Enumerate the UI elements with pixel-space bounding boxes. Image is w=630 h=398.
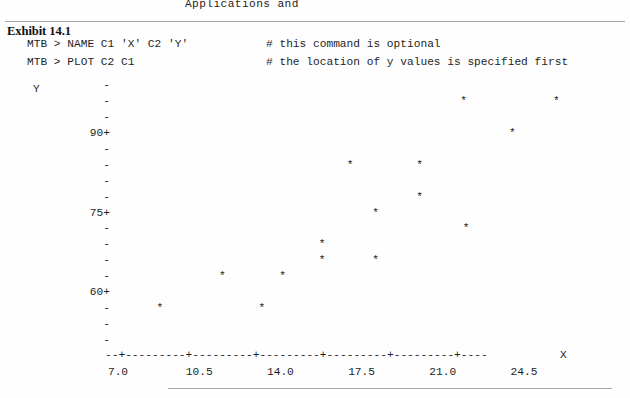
y-axis-tick: - <box>60 239 110 250</box>
x-axis-tick-label: 21.0 <box>420 367 466 378</box>
y-axis-tick: 75+ <box>60 208 110 219</box>
data-point-marker: * <box>416 192 424 203</box>
y-axis-tick: - <box>60 335 110 346</box>
data-point-marker: * <box>460 96 468 107</box>
y-axis-tick: - <box>60 255 110 266</box>
ascii-scatter-plot: Y ---90+----75+----60+--- **************… <box>0 0 630 398</box>
x-axis-tick-label: 24.5 <box>501 367 547 378</box>
data-point-marker: * <box>318 239 326 250</box>
x-axis-tick-label: 10.5 <box>176 367 222 378</box>
y-axis-title: Y <box>33 84 40 95</box>
y-axis-tick: - <box>60 160 110 171</box>
y-axis-tick: 60+ <box>60 287 110 298</box>
data-point-marker: * <box>416 160 424 171</box>
data-point-marker: * <box>508 128 516 139</box>
x-axis-tick-label: 7.0 <box>95 367 141 378</box>
data-point-marker: * <box>156 303 164 314</box>
data-point-marker: * <box>346 160 354 171</box>
y-axis-tick: - <box>60 80 110 91</box>
y-axis-tick: - <box>60 176 110 187</box>
y-axis-tick: - <box>60 144 110 155</box>
data-point-marker: * <box>462 223 470 234</box>
y-axis-tick: - <box>60 96 110 107</box>
y-axis-tick: 90+ <box>60 128 110 139</box>
y-axis-tick: - <box>60 223 110 234</box>
data-point-marker: * <box>218 271 226 282</box>
data-point-marker: * <box>552 96 560 107</box>
exhibit-page: Applications and Exhibit 14.1 MTB > NAME… <box>0 0 630 398</box>
data-point-marker: * <box>372 255 380 266</box>
x-axis-tick-label: 17.5 <box>339 367 385 378</box>
y-axis-tick: - <box>60 112 110 123</box>
data-point-marker: * <box>318 255 326 266</box>
data-point-marker: * <box>258 303 266 314</box>
x-axis-title: X <box>560 350 567 361</box>
bottom-divider-rule <box>168 388 612 389</box>
y-axis-tick: - <box>60 319 110 330</box>
x-axis-line: --+---------+---------+---------+-------… <box>105 350 488 361</box>
data-point-marker: * <box>372 208 380 219</box>
y-axis-tick: - <box>60 271 110 282</box>
y-axis-tick: - <box>60 303 110 314</box>
data-point-marker: * <box>279 271 287 282</box>
x-axis-tick-label: 14.0 <box>257 367 303 378</box>
y-axis-tick: - <box>60 192 110 203</box>
